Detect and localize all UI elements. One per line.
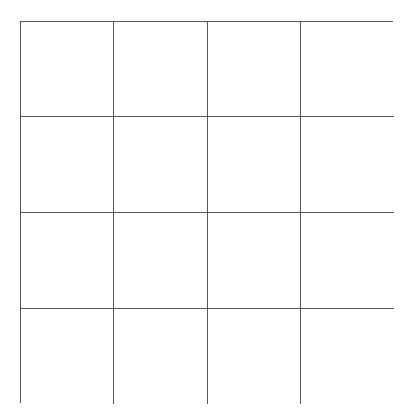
board-cell-r3-c3[interactable]	[208, 213, 301, 309]
board-cell-r3-c1[interactable]	[21, 213, 114, 309]
board-cell-r4-c2[interactable]	[114, 309, 208, 404]
board-cell-r2-c2[interactable]	[114, 117, 208, 213]
game-board	[20, 21, 393, 403]
board-cell-r1-c1[interactable]	[21, 22, 114, 117]
board-cell-r1-c2[interactable]	[114, 22, 208, 117]
board-cell-r2-c1[interactable]	[21, 117, 114, 213]
board-cell-r3-c2[interactable]	[114, 213, 208, 309]
board-cell-r3-c4[interactable]	[301, 213, 394, 309]
board-cell-r2-c4[interactable]	[301, 117, 394, 213]
board-cell-r4-c1[interactable]	[21, 309, 114, 404]
board-cell-r2-c3[interactable]	[208, 117, 301, 213]
board-cell-r4-c3[interactable]	[208, 309, 301, 404]
board-cell-r1-c3[interactable]	[208, 22, 301, 117]
board-cell-r4-c4[interactable]	[301, 309, 394, 404]
board-cell-r1-c4[interactable]	[301, 22, 394, 117]
